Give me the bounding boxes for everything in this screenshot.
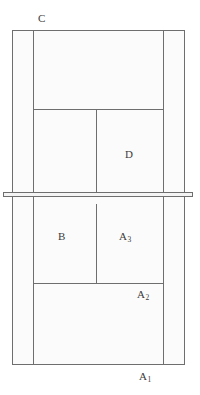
region-c-bottom-divider <box>33 109 163 110</box>
label-a2-subscript: 2 <box>146 293 150 302</box>
label-a1-subscript: 1 <box>148 375 152 384</box>
label-a3-subscript: 3 <box>128 235 132 244</box>
mid-horizontal-band <box>3 192 193 197</box>
region-a2-top-divider <box>33 283 163 284</box>
label-c: C <box>38 13 46 24</box>
label-b: B <box>58 231 66 242</box>
region-b-a3-divider <box>96 204 97 283</box>
label-a2: A2 <box>137 289 149 300</box>
region-d-left-divider <box>96 109 97 192</box>
label-d: D <box>125 149 133 160</box>
label-a1: A1 <box>139 371 151 382</box>
label-a2-base: A <box>137 288 145 300</box>
outer-frame <box>12 30 185 365</box>
technical-diagram: C D B A3 A2 A1 <box>0 0 200 395</box>
label-a1-base: A <box>139 370 147 382</box>
right-column-divider <box>163 30 164 365</box>
left-column-divider <box>33 30 34 365</box>
label-a3-base: A <box>119 230 127 242</box>
label-a3: A3 <box>119 231 131 242</box>
